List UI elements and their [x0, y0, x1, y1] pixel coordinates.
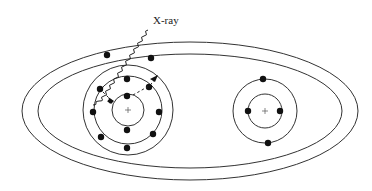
molecular-electron: [104, 52, 110, 58]
xray-label: X-ray: [153, 14, 179, 26]
middle-electron: [150, 131, 156, 137]
xray-wave-icon: [93, 30, 148, 105]
right-atom: [233, 76, 297, 146]
inner-electron: [124, 127, 130, 133]
left-nucleus-plus-icon: [125, 107, 131, 113]
middle-electron: [124, 76, 130, 82]
inner-electron: [124, 93, 130, 99]
middle-electron: [156, 109, 162, 115]
middle-electron: [98, 134, 104, 140]
inner-electron: [245, 108, 251, 114]
left-atom: [83, 65, 173, 155]
ejection-arrow: [133, 75, 158, 95]
middle-electron: [90, 109, 96, 115]
middle-electron: [124, 145, 130, 151]
right-nucleus-plus-icon: [262, 108, 268, 114]
inner-molecular-orbital: [38, 54, 342, 168]
outer-molecular-orbital: [22, 42, 358, 180]
inner-electron: [277, 108, 283, 114]
inner-transition-arrow: [103, 92, 114, 104]
outer-electron: [260, 76, 266, 82]
outer-electron: [265, 140, 271, 146]
arrowhead-icon: [150, 75, 158, 82]
molecule-diagram: X-ray: [0, 0, 372, 191]
molecular-electron: [148, 55, 154, 61]
middle-electron: [97, 86, 103, 92]
